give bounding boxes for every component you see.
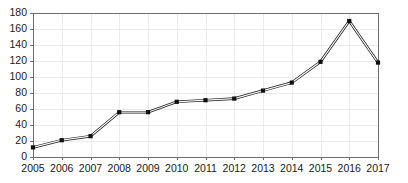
x-axis-tick-label: 2006	[50, 162, 74, 174]
x-axis-tick-label: 2012	[223, 162, 247, 174]
y-axis-tick-label: 40	[15, 118, 27, 130]
x-axis-tick-label: 2014	[280, 162, 304, 174]
chart-canvas: 020406080100120140160180 200520062007200…	[0, 0, 408, 183]
y-axis-tick-label: 20	[15, 134, 27, 146]
x-axis-tick-label: 2010	[165, 162, 189, 174]
y-axis-tick-label: 60	[15, 102, 27, 114]
x-axis-tick-label: 2013	[251, 162, 275, 174]
x-axis-tick-label: 2007	[79, 162, 103, 174]
y-axis-tick-label: 140	[9, 38, 27, 50]
x-axis-tick-label: 2017	[366, 162, 390, 174]
y-axis-tick-label: 180	[9, 6, 27, 18]
x-axis-tick-label: 2005	[21, 162, 45, 174]
y-axis-tick-label: 0	[21, 150, 27, 162]
y-axis-tick-label: 120	[9, 54, 27, 66]
x-axis-tick-label: 2011	[194, 162, 217, 174]
x-axis-tick-label: 2009	[136, 162, 160, 174]
x-axis-tick-label: 2015	[309, 162, 333, 174]
y-axis-tick-label: 80	[15, 86, 27, 98]
chart-background	[0, 0, 408, 183]
x-axis-tick-label: 2008	[108, 162, 132, 174]
x-axis-tick-label: 2016	[338, 162, 362, 174]
y-axis-tick-label: 160	[9, 22, 27, 34]
y-axis-tick-label: 100	[9, 70, 27, 82]
line-chart: 020406080100120140160180 200520062007200…	[0, 0, 408, 183]
